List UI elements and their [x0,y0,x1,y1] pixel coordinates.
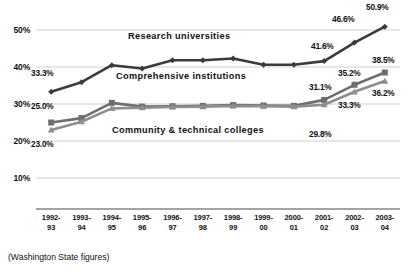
footnote-text: (Washington State figures) [8,252,109,262]
x-axis-tick-label: 1993-94 [66,213,98,232]
data-value-label: 31.1% [309,82,332,92]
data-point-marker [230,55,236,61]
series-label-comprehensive: Comprehensive institutions [116,71,246,81]
y-axis-tick-label: 20% [4,136,30,146]
x-axis-tick-label: 1994-95 [96,213,128,232]
data-value-label: 38.5% [372,55,395,65]
x-axis-tick-label: 1995-96 [126,213,158,232]
x-axis-tick-label: 1992-93 [35,213,67,232]
chart-container: 10%20%30%40%50% 1992-931993-941994-95199… [0,0,414,272]
data-value-label: 25.0% [31,101,54,111]
series-label-research: Research universities [128,31,230,41]
data-point-marker [200,57,206,63]
data-value-label: 33.3% [338,100,361,110]
data-value-label: 50.9% [366,2,389,12]
y-axis-tick-label: 30% [4,99,30,109]
series-label-community: Community & technical colleges [112,125,264,135]
data-value-label: 36.2% [372,88,395,98]
x-axis-tick-label: 2001-02 [308,213,340,232]
data-point-marker [48,89,54,95]
data-value-label: 41.6% [311,41,334,51]
data-value-label: 46.6% [332,14,355,24]
data-point-marker [352,82,358,88]
data-value-label: 33.3% [31,68,54,78]
data-point-marker [382,70,388,76]
data-point-marker [109,100,115,106]
data-value-label: 35.2% [338,68,361,78]
data-point-marker [48,120,54,126]
x-axis-tick-label: 2003-04 [369,213,401,232]
y-axis-tick-label: 50% [4,25,30,35]
series-line-2 [51,81,385,130]
x-axis-tick-label: 1999-00 [248,213,280,232]
x-axis-tick-label: 2000-01 [278,213,310,232]
data-value-label: 23.0% [31,139,54,149]
data-value-label: 29.8% [309,129,332,139]
x-axis-tick-label: 2002-03 [339,213,371,232]
y-axis-tick-label: 10% [4,173,30,183]
x-axis-tick-label: 1997-98 [187,213,219,232]
data-point-marker [170,57,176,63]
y-axis-tick-label: 40% [4,62,30,72]
x-axis-tick-label: 1996-97 [157,213,189,232]
x-axis-tick-label: 1998-99 [217,213,249,232]
